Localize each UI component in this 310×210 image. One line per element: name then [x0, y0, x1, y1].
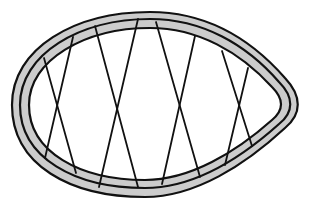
diagram-canvas	[0, 0, 310, 210]
teardrop-ring-diagram	[0, 0, 310, 210]
